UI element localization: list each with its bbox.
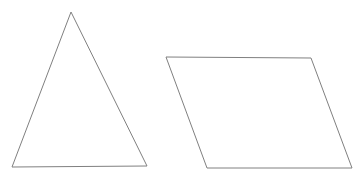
shapes-svg bbox=[0, 0, 364, 178]
parallelogram-shape[interactable] bbox=[166, 57, 352, 168]
drawing-canvas bbox=[0, 0, 364, 178]
triangle-shape[interactable] bbox=[12, 12, 147, 167]
